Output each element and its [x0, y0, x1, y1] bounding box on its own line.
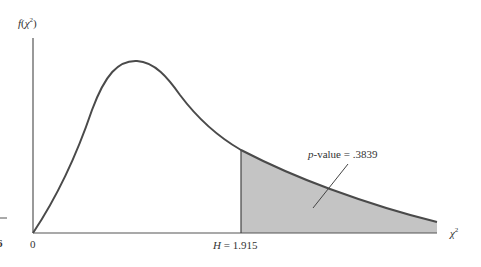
x-axis-label: χ2 [450, 226, 458, 239]
chi-square-chart [0, 0, 481, 267]
y-axis-label: f(χ2) [18, 16, 37, 29]
x-label-sup: 2 [455, 226, 459, 234]
origin-label: 0 [30, 238, 36, 250]
h-value: = 1.915 [221, 239, 257, 251]
cutoff-label: H = 1.915 [213, 239, 257, 251]
y-label-paren-close: ) [33, 17, 37, 29]
edge-fragment-text: 6 [0, 237, 3, 249]
p-value-text: -value = .3839 [314, 148, 378, 160]
p-value-label: p-value = .3839 [308, 148, 377, 160]
h-var: H [213, 239, 221, 251]
